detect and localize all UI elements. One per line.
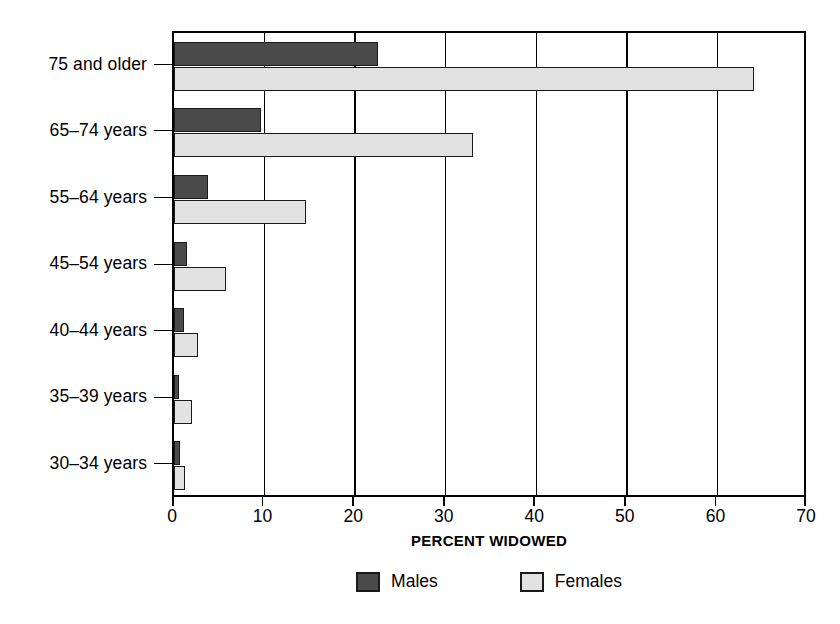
category-label: 55–64 years [50, 189, 147, 207]
category-tick [154, 330, 172, 331]
bar-females [174, 67, 754, 91]
bar-males [174, 242, 187, 266]
category-label-row: 40–44 years [0, 319, 172, 343]
x-axis-title: PERCENT WIDOWED [172, 532, 806, 549]
bar-males [174, 308, 184, 332]
category-label: 65–74 years [50, 122, 147, 140]
category-axis: 75 and older65–74 years55–64 years45–54 … [0, 31, 172, 497]
x-axis-tick [352, 497, 354, 506]
legend-label: Males [391, 573, 438, 591]
bar-females [174, 267, 226, 291]
bars-layer [174, 33, 804, 495]
x-axis-tick [804, 497, 806, 506]
bar-females [174, 466, 185, 490]
x-axis-tick-label: 20 [343, 506, 362, 527]
x-axis-tick-labels: 010203040506070 [172, 506, 806, 530]
category-label: 45–54 years [50, 255, 147, 273]
x-axis-tick [715, 497, 717, 506]
x-axis-tick-label: 10 [253, 506, 272, 527]
legend-swatch-female [520, 572, 544, 592]
legend-label: Females [555, 573, 622, 591]
category-tick [154, 197, 172, 198]
category-label-row: 35–39 years [0, 385, 172, 409]
category-label-row: 30–34 years [0, 452, 172, 476]
x-axis-tick-label: 40 [525, 506, 544, 527]
bar-chart: 75 and older65–74 years55–64 years45–54 … [0, 0, 840, 624]
category-label-row: 55–64 years [0, 185, 172, 209]
x-axis-tick-label: 70 [796, 506, 815, 527]
x-axis-tick [262, 497, 264, 506]
legend-item-male[interactable]: Males [356, 572, 438, 592]
bar-males [174, 375, 179, 399]
category-tick [154, 64, 172, 65]
bar-males [174, 42, 378, 66]
legend-item-female[interactable]: Females [520, 572, 622, 592]
category-tick [154, 463, 172, 464]
category-label: 30–34 years [50, 455, 147, 473]
x-axis-tick [443, 497, 445, 506]
category-tick [154, 397, 172, 398]
category-label: 75 and older [48, 56, 147, 74]
x-axis-tick [172, 497, 174, 506]
category-tick [154, 264, 172, 265]
x-axis-tick-label: 30 [434, 506, 453, 527]
bar-females [174, 133, 473, 157]
legend-swatch-male [356, 572, 380, 592]
category-label: 40–44 years [50, 322, 147, 340]
x-axis-tick-label: 60 [706, 506, 725, 527]
x-axis-tick [624, 497, 626, 506]
bar-males [174, 441, 180, 465]
category-label-row: 65–74 years [0, 119, 172, 143]
plot-area [172, 31, 806, 497]
x-axis-tick-label: 0 [167, 506, 177, 527]
x-axis-tick-label: 50 [615, 506, 634, 527]
bar-females [174, 400, 192, 424]
x-axis-ticks [172, 497, 806, 506]
bar-males [174, 108, 261, 132]
category-label: 35–39 years [50, 388, 147, 406]
category-tick [154, 130, 172, 131]
x-axis-tick [533, 497, 535, 506]
category-label-row: 75 and older [0, 52, 172, 76]
category-label-row: 45–54 years [0, 252, 172, 276]
bar-males [174, 175, 208, 199]
chart-legend: MalesFemales [172, 572, 806, 592]
bar-females [174, 200, 306, 224]
bar-females [174, 333, 198, 357]
